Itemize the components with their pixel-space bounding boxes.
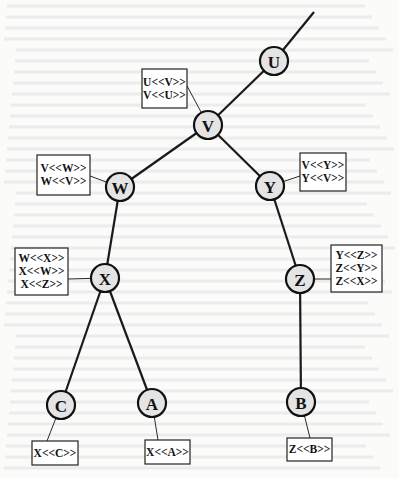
annotation-text: Y<<Z>> (335, 249, 377, 261)
edge-V-W (120, 125, 208, 187)
tree-node-V: V (194, 111, 222, 139)
annotation-text: W<<X>> (18, 252, 64, 264)
tree-node-Y: Y (256, 172, 284, 200)
node-label: W (112, 179, 129, 198)
annotation-box-Z: Y<<Z>>Z<<Y>>Z<<X>> (331, 245, 382, 292)
annotation-text: Z<<B>> (289, 443, 331, 455)
node-label: U (268, 53, 280, 72)
annotation-box-X: W<<X>>X<<W>>X<<Z>> (15, 248, 68, 295)
annotation-text: W<<V>> (40, 175, 86, 187)
edge-X-C (61, 278, 105, 405)
annotation-text: X<<W>> (18, 265, 64, 277)
annotation-text: X<<Z>> (20, 278, 62, 290)
annotation-text: V<<U>> (143, 89, 186, 101)
annotation-text: V<<Y>> (302, 159, 345, 171)
tree-node-C: C (47, 391, 75, 419)
tree-node-W: W (106, 173, 134, 201)
tree-diagram: U<<V>>V<<U>>V<<W>>W<<V>>V<<Y>>Y<<V>>W<<X… (0, 0, 399, 478)
annotation-text: Z<<X>> (335, 275, 377, 287)
annotation-text: V<<W>> (40, 162, 86, 174)
annotation-box-W: V<<W>>W<<V>> (37, 155, 90, 195)
node-label: Y (264, 178, 276, 197)
annotation-box-A: X<<A>> (145, 440, 190, 464)
annotation-box-B: Z<<B>> (287, 438, 332, 461)
annotation-box-V: U<<V>>V<<U>> (142, 69, 187, 108)
node-label: Z (294, 271, 305, 290)
annotation-text: X<<A>> (146, 446, 189, 458)
annotation-text: Z<<Y>> (335, 262, 377, 274)
tree-node-B: B (287, 388, 315, 416)
node-label: B (295, 394, 306, 413)
annotation-box-C: X<<C>> (32, 441, 78, 465)
node-label: C (55, 397, 67, 416)
node-label: A (146, 395, 159, 414)
tree-node-A: A (138, 389, 166, 417)
edge-Z-B (300, 279, 301, 402)
tree-node-Z: Z (286, 265, 314, 293)
annotation-text: Y<<V>> (302, 172, 345, 184)
annotation-text: U<<V>> (143, 76, 186, 88)
node-label: X (99, 270, 112, 289)
annotation-text: X<<C>> (34, 447, 77, 459)
tree-node-X: X (91, 264, 119, 292)
node-label: V (202, 117, 215, 136)
tree-node-U: U (260, 47, 288, 75)
annotation-box-Y: V<<Y>>Y<<V>> (300, 153, 346, 191)
edge-X-A (105, 278, 152, 403)
